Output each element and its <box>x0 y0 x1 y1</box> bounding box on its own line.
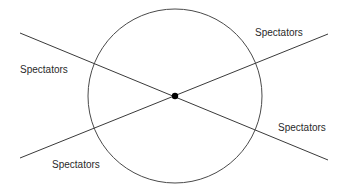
label-spectators-top-left: Spectators <box>20 64 68 75</box>
spectator-diagram: Spectators Spectators Spectators Spectat… <box>0 0 345 191</box>
label-spectators-top-right: Spectators <box>255 27 303 38</box>
center-point-dot <box>172 93 178 99</box>
label-spectators-bottom-right: Spectators <box>278 122 326 133</box>
label-spectators-bottom-left: Spectators <box>52 159 100 170</box>
